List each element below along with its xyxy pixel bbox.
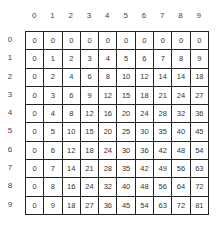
table-cell: 24 xyxy=(172,86,190,104)
table-cell: 56 xyxy=(172,160,190,178)
table-cell: 72 xyxy=(190,178,208,196)
table-cell: 18 xyxy=(190,68,208,86)
table-cell: 12 xyxy=(135,68,153,86)
table-cell: 21 xyxy=(154,86,172,104)
table-cell: 8 xyxy=(99,68,117,86)
table-cell: 72 xyxy=(172,196,190,214)
table-cell: 0 xyxy=(26,50,44,68)
table-cell: 9 xyxy=(190,50,208,68)
table-cell: 21 xyxy=(80,160,98,178)
table-cell: 14 xyxy=(172,68,190,86)
table-cell: 32 xyxy=(99,178,117,196)
table-row: 04812162024283236 xyxy=(26,105,209,123)
column-header: 5 xyxy=(116,9,134,23)
table-cell: 0 xyxy=(44,32,62,50)
table-row: 071421283542495663 xyxy=(26,160,209,178)
row-header: 7 xyxy=(0,159,20,177)
row-header: 1 xyxy=(0,49,20,67)
table-cell: 40 xyxy=(172,123,190,141)
table-cell: 12 xyxy=(80,105,98,123)
row-header: 6 xyxy=(0,141,20,159)
row-headers: 0123456789 xyxy=(0,31,20,214)
multiplication-table: 0000000000012345678902468101214141803691… xyxy=(25,31,209,215)
column-header: 0 xyxy=(25,9,43,23)
table-cell: 0 xyxy=(26,178,44,196)
table-cell: 0 xyxy=(172,32,190,50)
table-cell: 25 xyxy=(117,123,135,141)
table-cell: 0 xyxy=(26,86,44,104)
table-cell: 3 xyxy=(44,86,62,104)
table-cell: 8 xyxy=(44,178,62,196)
table-cell: 0 xyxy=(26,160,44,178)
table-cell: 35 xyxy=(117,160,135,178)
table-cell: 40 xyxy=(117,178,135,196)
table-cell: 4 xyxy=(44,105,62,123)
table-cell: 36 xyxy=(135,141,153,159)
table-row: 061218243036424854 xyxy=(26,141,209,159)
table-cell: 5 xyxy=(44,123,62,141)
table-cell: 6 xyxy=(44,141,62,159)
table-cell: 42 xyxy=(154,141,172,159)
table-cell: 7 xyxy=(154,50,172,68)
table-cell: 14 xyxy=(154,68,172,86)
row-header: 3 xyxy=(0,86,20,104)
table-cell: 6 xyxy=(135,50,153,68)
table-cell: 20 xyxy=(99,123,117,141)
table-cell: 9 xyxy=(44,196,62,214)
table-cell: 0 xyxy=(26,196,44,214)
table-cell: 8 xyxy=(172,50,190,68)
table-cell: 4 xyxy=(62,68,80,86)
table-cell: 0 xyxy=(26,123,44,141)
table-cell: 7 xyxy=(44,160,62,178)
table-cell: 2 xyxy=(44,68,62,86)
table-cell: 2 xyxy=(62,50,80,68)
column-header: 7 xyxy=(153,9,171,23)
table-cell: 0 xyxy=(190,32,208,50)
table-cell: 16 xyxy=(99,105,117,123)
table-cell: 42 xyxy=(135,160,153,178)
table-cell: 56 xyxy=(154,178,172,196)
row-header: 9 xyxy=(0,196,20,214)
row-header: 2 xyxy=(0,68,20,86)
table-cell: 48 xyxy=(135,178,153,196)
row-header: 8 xyxy=(0,177,20,195)
table-cell: 10 xyxy=(62,123,80,141)
table-cell: 0 xyxy=(80,32,98,50)
table-cell: 28 xyxy=(154,105,172,123)
table-cell: 63 xyxy=(190,160,208,178)
row-header: 0 xyxy=(0,31,20,49)
table-row: 0000000000 xyxy=(26,32,209,50)
table-cell: 15 xyxy=(117,86,135,104)
table-cell: 12 xyxy=(62,141,80,159)
table-cell: 1 xyxy=(44,50,62,68)
row-header: 5 xyxy=(0,122,20,140)
table-cell: 54 xyxy=(135,196,153,214)
table-cell: 6 xyxy=(80,68,98,86)
table-cell: 14 xyxy=(62,160,80,178)
table-cell: 32 xyxy=(172,105,190,123)
table-cell: 9 xyxy=(80,86,98,104)
column-header: 3 xyxy=(80,9,98,23)
table-cell: 81 xyxy=(190,196,208,214)
table-cell: 54 xyxy=(190,141,208,159)
table-cell: 30 xyxy=(135,123,153,141)
table-row: 024681012141418 xyxy=(26,68,209,86)
table-cell: 0 xyxy=(26,141,44,159)
table-cell: 0 xyxy=(154,32,172,50)
table-cell: 30 xyxy=(117,141,135,159)
column-header: 8 xyxy=(171,9,189,23)
column-header: 9 xyxy=(190,9,208,23)
table-cell: 18 xyxy=(62,196,80,214)
table-cell: 0 xyxy=(26,68,44,86)
table-row: 091827364554637281 xyxy=(26,196,209,214)
table-cell: 0 xyxy=(62,32,80,50)
table-cell: 35 xyxy=(154,123,172,141)
table-cell: 48 xyxy=(172,141,190,159)
table-cell: 16 xyxy=(62,178,80,196)
table-cell: 12 xyxy=(99,86,117,104)
table-cell: 18 xyxy=(135,86,153,104)
table-cell: 6 xyxy=(62,86,80,104)
table-cell: 20 xyxy=(117,105,135,123)
table-cell: 24 xyxy=(135,105,153,123)
table-cell: 10 xyxy=(117,68,135,86)
